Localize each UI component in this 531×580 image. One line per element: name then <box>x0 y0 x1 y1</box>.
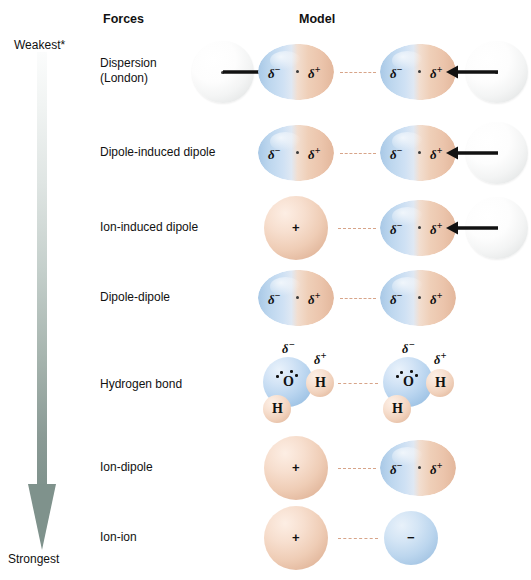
model-dipole-induced-dipole: δ− δ+ δ− δ+ <box>190 113 531 191</box>
delta-positive-label: δ+ <box>430 221 442 236</box>
delta-negative-label: δ− <box>390 65 402 80</box>
dipole-center-dot <box>296 296 299 299</box>
row-label-ion-dipole: Ion-dipole <box>100 460 153 475</box>
intermolecular-dashed-bond <box>340 72 376 73</box>
row-ion-dipole: Ion-dipole + δ− δ+ <box>0 428 531 506</box>
delta-positive-label: δ+ <box>430 461 442 476</box>
row-label-dispersion-london: Dispersion (London) <box>100 56 157 86</box>
intermolecular-dashed-bond <box>338 538 378 539</box>
row-dipole-induced-dipole: Dipole-induced dipole δ− δ+ δ− δ+ <box>0 113 531 191</box>
model-ion-dipole: + δ− δ+ <box>190 428 531 506</box>
delta-negative-label: δ− <box>390 221 402 236</box>
delta-negative-label: δ− <box>268 291 280 306</box>
intermolecular-dashed-bond <box>340 153 376 154</box>
delta-negative-label: δ− <box>390 291 402 306</box>
model-ion-induced-dipole: + δ− δ+ <box>190 188 531 266</box>
hydrogen-bond-dashed-line <box>338 383 378 384</box>
cation-charge-label: + <box>292 221 300 234</box>
delta-negative-label: δ− <box>282 340 295 356</box>
hydrogen-letter: H <box>392 402 403 416</box>
hydrogen-letter: H <box>315 376 326 390</box>
lone-pair-dot <box>295 374 298 377</box>
row-label-ion-induced-dipole: Ion-induced dipole <box>100 220 198 235</box>
induction-arrow-left <box>446 64 498 80</box>
column-header-model: Model <box>299 12 335 26</box>
delta-negative-label: δ− <box>390 146 402 161</box>
intermolecular-dashed-bond <box>340 298 376 299</box>
model-hydrogen-bond: δ− O H δ+ H δ− O H δ+ H <box>190 338 531 430</box>
row-ion-induced-dipole: Ion-induced dipole + δ− δ+ <box>0 188 531 266</box>
lone-pair-dot <box>276 375 279 378</box>
lone-pair-dot <box>400 371 403 374</box>
row-label-hydrogen-bond: Hydrogen bond <box>100 377 182 392</box>
oxygen-letter: O <box>283 375 294 389</box>
delta-positive-label: δ+ <box>430 146 442 161</box>
delta-negative-label: δ− <box>402 340 415 356</box>
hydrogen-letter: H <box>272 402 283 416</box>
dipole-center-dot <box>296 70 299 73</box>
model-ion-ion: + − <box>190 498 531 576</box>
hydrogen-letter: H <box>435 376 446 390</box>
delta-positive-label: δ+ <box>308 65 320 80</box>
dipole-center-dot <box>418 466 421 469</box>
row-dispersion-london: Dispersion (London) δ− δ+ δ− δ+ <box>0 32 531 110</box>
lone-pair-dot <box>280 371 283 374</box>
lone-pair-dot <box>415 374 418 377</box>
lone-pair-dot <box>290 370 293 373</box>
row-label-ion-ion: Ion-ion <box>100 530 137 545</box>
model-dispersion-london: δ− δ+ δ− δ+ <box>190 32 531 110</box>
lone-pair-dot <box>396 375 399 378</box>
intermolecular-dashed-bond <box>338 228 376 229</box>
cation-charge-label: + <box>292 531 300 544</box>
delta-negative-label: δ− <box>390 461 402 476</box>
row-hydrogen-bond: Hydrogen bond δ− O H δ+ H δ− O <box>0 338 531 430</box>
anion-charge-label: − <box>407 531 415 544</box>
induction-arrow-left <box>446 220 498 236</box>
lone-pair-dot <box>410 370 413 373</box>
dipole-center-dot <box>418 226 421 229</box>
delta-positive-label: δ+ <box>308 146 320 161</box>
delta-negative-label: δ− <box>268 146 280 161</box>
dipole-center-dot <box>296 151 299 154</box>
delta-positive-label: δ+ <box>314 351 326 367</box>
delta-positive-label: δ+ <box>430 291 442 306</box>
row-label-dipole-dipole: Dipole-dipole <box>100 290 170 305</box>
dipole-center-dot <box>418 296 421 299</box>
intermolecular-forces-figure: Forces Model Weakest* Strongest Dispersi… <box>0 0 531 580</box>
cation-charge-label: + <box>292 461 300 474</box>
intermolecular-dashed-bond <box>338 468 376 469</box>
model-dipole-dipole: δ− δ+ δ− δ+ <box>190 258 531 336</box>
dipole-center-dot <box>418 70 421 73</box>
column-header-forces: Forces <box>103 12 144 26</box>
delta-positive-label: δ+ <box>308 291 320 306</box>
row-ion-ion: Ion-ion + − <box>0 498 531 576</box>
oxygen-letter: O <box>403 375 414 389</box>
delta-positive-label: δ+ <box>434 351 446 367</box>
delta-positive-label: δ+ <box>430 65 442 80</box>
row-dipole-dipole: Dipole-dipole δ− δ+ δ− δ+ <box>0 258 531 336</box>
dipole-center-dot <box>418 151 421 154</box>
induction-arrow-left <box>446 145 498 161</box>
delta-negative-label: δ− <box>268 65 280 80</box>
